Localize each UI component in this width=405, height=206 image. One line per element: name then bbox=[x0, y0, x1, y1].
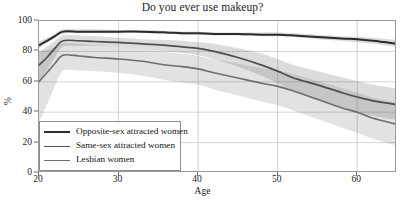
y-tick-mark bbox=[34, 80, 38, 81]
y-tick-label: 20 bbox=[6, 137, 32, 147]
x-tick-mark bbox=[197, 172, 198, 176]
x-tick-mark bbox=[356, 172, 357, 176]
legend-item-label: Opposite-sex attracted women bbox=[76, 127, 188, 136]
y-tick-mark bbox=[34, 111, 38, 112]
y-tick-mark bbox=[34, 50, 38, 51]
legend-swatch-line-icon bbox=[44, 146, 70, 147]
legend-item[interactable]: Lesbian women bbox=[44, 153, 175, 167]
y-tick-label: 60 bbox=[6, 76, 32, 86]
y-tick-label: 100 bbox=[6, 15, 32, 25]
legend-swatch-line-icon bbox=[44, 160, 70, 161]
y-tick-label: 40 bbox=[6, 106, 32, 116]
legend-item[interactable]: Opposite-sex attracted women bbox=[44, 125, 175, 139]
x-tick-mark bbox=[38, 172, 39, 176]
legend-item-label: Lesbian women bbox=[76, 155, 134, 164]
y-tick-label: 80 bbox=[6, 45, 32, 55]
x-tick-mark bbox=[118, 172, 119, 176]
y-tick-mark bbox=[34, 141, 38, 142]
legend-item-label: Same-sex attracted women bbox=[76, 141, 175, 150]
y-tick-mark bbox=[34, 20, 38, 21]
legend-item[interactable]: Same-sex attracted women bbox=[44, 139, 175, 153]
chart-legend[interactable]: Opposite-sex attracted womenSame-sex att… bbox=[39, 121, 181, 171]
chart-title: Do you ever use makeup? bbox=[0, 1, 405, 13]
legend-swatch-line-icon bbox=[44, 131, 70, 133]
x-tick-mark bbox=[277, 172, 278, 176]
x-axis-label: Age bbox=[0, 186, 405, 196]
chart-figure: Do you ever use makeup? % Age 0204060801… bbox=[0, 0, 405, 206]
